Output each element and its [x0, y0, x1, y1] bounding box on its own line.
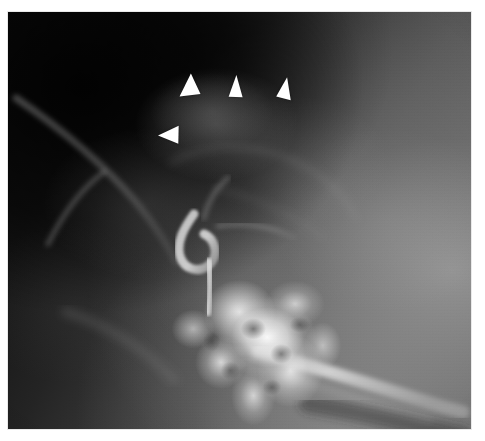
vessel-anterior-branch	[16, 98, 176, 262]
vessel-carotid-siphon	[179, 214, 215, 270]
radiograph-plate	[8, 12, 471, 429]
vessel-posterior-branch	[218, 225, 294, 239]
bone-edge-lower-left	[66, 312, 174, 380]
angiogram-figure	[0, 0, 485, 441]
vessel-mass-capsular-arc	[172, 147, 356, 218]
vessel-cervical-carotid	[258, 352, 463, 412]
soft-tissue-dark-band	[308, 404, 463, 429]
vessel-cervical-carotid-shadow	[244, 364, 428, 420]
vessel-mass-feeder	[214, 188, 324, 238]
vessel-left-branch	[48, 172, 104, 244]
vessel-ascending-branch	[204, 178, 228, 218]
vessel-siphon-descending	[208, 262, 211, 312]
